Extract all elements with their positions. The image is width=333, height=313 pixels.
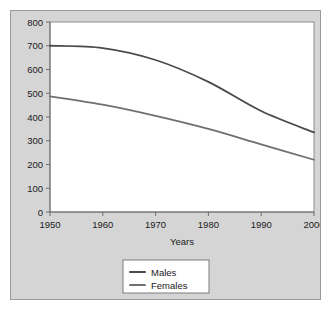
y-axis-ticks [46, 22, 50, 212]
y-tick-label: 600 [27, 64, 43, 75]
y-tick-label: 400 [27, 112, 43, 123]
x-tick-label: 1980 [198, 219, 219, 230]
y-tick-label: 800 [27, 17, 43, 28]
x-tick-label: 1960 [92, 219, 113, 230]
legend-label: Females [151, 280, 188, 291]
x-axis-ticks [50, 212, 314, 216]
chart-figure: 0100200300400500600700800 19501960197019… [10, 10, 321, 300]
x-axis-tick-labels: 195019601970198019902000 [39, 219, 320, 230]
y-tick-label: 100 [27, 183, 43, 194]
y-tick-label: 200 [27, 159, 43, 170]
x-axis-title: Years [170, 236, 194, 247]
line-chart: 0100200300400500600700800 19501960197019… [11, 11, 320, 299]
y-axis-tick-labels: 0100200300400500600700800 [27, 17, 43, 218]
x-tick-label: 1970 [145, 219, 166, 230]
x-tick-label: 2000 [303, 219, 320, 230]
legend-label: Males [151, 267, 177, 278]
chart-legend: MalesFemales [123, 260, 209, 293]
y-tick-label: 700 [27, 40, 43, 51]
y-tick-label: 300 [27, 135, 43, 146]
y-tick-label: 0 [38, 207, 43, 218]
x-tick-label: 1950 [39, 219, 60, 230]
x-tick-label: 1990 [251, 219, 272, 230]
y-tick-label: 500 [27, 88, 43, 99]
